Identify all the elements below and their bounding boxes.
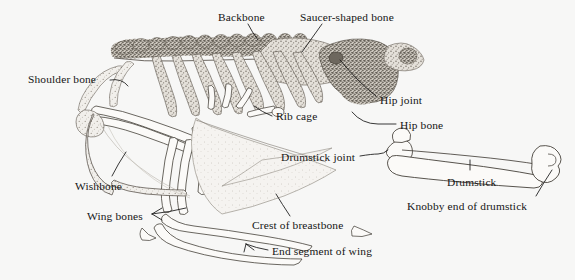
label-shoulder-bone: Shoulder bone: [28, 74, 96, 85]
label-saucer-shaped-bone: Saucer-shaped bone: [300, 12, 394, 23]
label-knobby-end: Knobby end of drumstick: [407, 201, 527, 212]
label-wishbone: Wishbone: [75, 181, 122, 192]
leader-wishbone: [112, 152, 126, 176]
label-drumstick: Drumstick: [447, 177, 496, 188]
wing-bones-shape: [76, 106, 207, 215]
crest-of-breastbone-shape: [192, 84, 337, 214]
label-wing-bones: Wing bones: [87, 211, 143, 222]
leader-crest: [276, 194, 290, 216]
label-drumstick-joint: Drumstick joint: [281, 152, 355, 163]
label-hip-joint: Hip joint: [380, 95, 422, 106]
label-hip-bone: Hip bone: [400, 120, 443, 131]
skeleton-illustration: [0, 0, 575, 280]
label-rib-cage: Rib cage: [276, 111, 317, 122]
leader-end-segment: [244, 244, 268, 252]
label-end-segment-of-wing: End segment of wing: [272, 246, 372, 257]
label-backbone: Backbone: [218, 12, 265, 23]
leader-hip-bone: [352, 112, 396, 124]
hip-joint-shape: [329, 52, 343, 64]
anatomical-figure: Backbone Saucer-shaped bone Shoulder bon…: [0, 0, 575, 280]
label-crest-of-breastbone: Crest of breastbone: [252, 220, 343, 231]
leader-drumstick-joint: [360, 150, 388, 156]
shoulder-bone-shape: [78, 61, 134, 112]
